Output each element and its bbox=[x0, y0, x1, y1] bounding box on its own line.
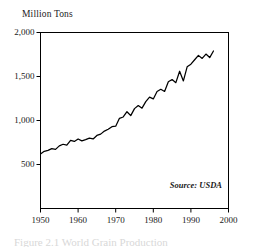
chart-figure: Million Tons 5001,0001,5002,000 19501960… bbox=[0, 0, 253, 247]
x-axis-tick-label: 2000 bbox=[209, 215, 249, 225]
x-axis-tick-label: 1990 bbox=[171, 215, 211, 225]
y-axis-tick-label: 500 bbox=[3, 159, 35, 169]
y-axis-tick-label: 1,000 bbox=[3, 115, 35, 125]
chart-plot-area bbox=[0, 0, 253, 247]
x-axis-tick-label: 1960 bbox=[58, 215, 98, 225]
y-axis-tick-label: 1,500 bbox=[3, 71, 35, 81]
x-axis-tick-label: 1970 bbox=[96, 215, 136, 225]
source-annotation: Source: USDA bbox=[170, 180, 222, 190]
figure-caption-partial: Figure 2.1 World Grain Production bbox=[14, 236, 242, 247]
y-axis-tick-label: 2,000 bbox=[3, 27, 35, 37]
x-axis-tick-label: 1980 bbox=[133, 215, 173, 225]
x-axis-tick-marks bbox=[41, 209, 229, 213]
x-axis-tick-label: 1950 bbox=[21, 215, 61, 225]
y-axis-tick-marks bbox=[37, 33, 41, 165]
